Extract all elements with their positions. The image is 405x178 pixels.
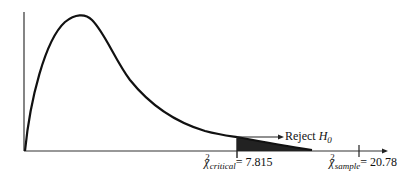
sample-label: χ2sample= 20.78 bbox=[329, 155, 397, 171]
reject-sub: 0 bbox=[327, 135, 332, 145]
critical-sub: critical bbox=[210, 161, 236, 171]
x-axis-arrow-icon bbox=[382, 149, 388, 154]
chi-square-chart bbox=[0, 0, 405, 178]
sample-sub: sample bbox=[335, 161, 361, 171]
critical-label: χ2critical= 7.815 bbox=[204, 155, 273, 171]
chi-sup: 2 bbox=[205, 152, 210, 162]
reject-label: Reject H0 bbox=[285, 129, 332, 145]
reject-arrow-icon bbox=[278, 135, 284, 140]
density-curve bbox=[25, 15, 312, 151]
sample-value: = 20.78 bbox=[360, 155, 397, 169]
critical-value: = 7.815 bbox=[236, 155, 273, 169]
chi-sup: 2 bbox=[330, 152, 335, 162]
reject-text: Reject bbox=[285, 129, 319, 143]
